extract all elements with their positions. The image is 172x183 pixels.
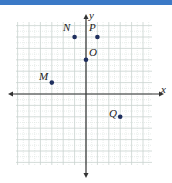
coordinate-grid <box>0 0 172 183</box>
point-label-n: N <box>63 22 70 33</box>
point-label-q: Q <box>109 108 117 119</box>
point-label-p: P <box>89 22 96 33</box>
point-o <box>84 58 89 63</box>
point-q <box>118 115 123 120</box>
y-axis-up-arrow-icon <box>84 14 89 19</box>
point-label-m: M <box>39 71 48 82</box>
y-axis-down-arrow-icon <box>84 173 89 178</box>
point-label-o: O <box>89 47 97 58</box>
point-m <box>50 80 55 85</box>
x-axis-left-arrow-icon <box>8 92 13 97</box>
point-p <box>95 35 100 40</box>
y-axis-label: y <box>89 10 94 21</box>
x-axis-label: x <box>161 84 166 95</box>
point-n <box>72 35 77 40</box>
